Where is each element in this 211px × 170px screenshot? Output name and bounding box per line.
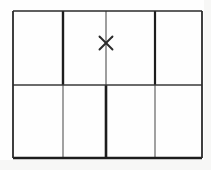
cell-r1c1 <box>13 11 63 85</box>
cell-r1c2 <box>63 11 106 85</box>
cell-r2c1 <box>13 85 63 158</box>
grid-drawing <box>0 0 211 170</box>
cell-r2c3 <box>106 85 155 158</box>
cell-r2c2 <box>63 85 106 158</box>
grid-diagram-figure <box>0 0 211 170</box>
cell-r1c3 <box>106 11 155 85</box>
cell-r1c4 <box>155 11 202 85</box>
cell-r2c4 <box>155 85 202 158</box>
